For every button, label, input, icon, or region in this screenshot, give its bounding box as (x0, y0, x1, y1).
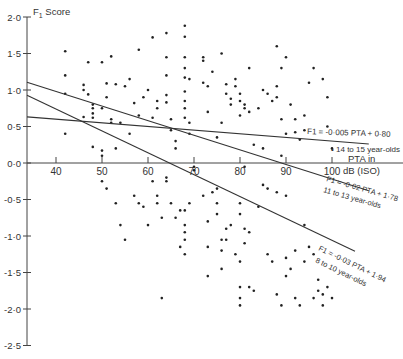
data-point (110, 55, 113, 58)
data-point (174, 140, 177, 143)
data-point (165, 74, 168, 77)
y-tick-label: 1·0 (7, 85, 21, 96)
data-point (165, 180, 168, 183)
data-point (317, 290, 320, 293)
data-point (285, 257, 288, 260)
x-tick-label: 40 (50, 166, 62, 177)
data-point (202, 81, 205, 84)
data-point (124, 85, 127, 88)
data-point (202, 56, 205, 59)
data-point (193, 169, 196, 172)
scatter-chart: 2·01·51·00·50·0-0·5-1·0-1·5-2·0-2·540506… (0, 0, 403, 359)
data-point (253, 144, 256, 147)
data-point (147, 224, 150, 227)
data-point (216, 187, 219, 190)
data-point (92, 107, 95, 110)
data-point (207, 220, 210, 223)
data-point (230, 98, 233, 101)
data-point (266, 187, 269, 190)
data-point (82, 89, 85, 92)
data-point (220, 268, 223, 271)
data-point (243, 227, 246, 230)
data-point (285, 56, 288, 59)
data-point (184, 231, 187, 234)
data-point (174, 147, 177, 150)
data-point (243, 242, 246, 245)
data-point (165, 101, 168, 104)
y-tick-label: -1·5 (4, 267, 21, 278)
data-point (184, 76, 187, 79)
data-point (133, 195, 136, 198)
data-point (147, 89, 150, 92)
data-point (115, 147, 118, 150)
data-point (243, 103, 246, 106)
data-point (193, 165, 196, 168)
data-point (161, 297, 164, 300)
data-point (184, 253, 187, 256)
data-point (170, 118, 173, 121)
y-tick-label: -0·5 (4, 194, 21, 205)
data-point (156, 195, 159, 198)
data-point (303, 224, 306, 227)
data-point (184, 56, 187, 59)
data-point (115, 83, 118, 86)
data-point (101, 61, 104, 64)
data-point (294, 249, 297, 252)
data-point (271, 260, 274, 263)
data-point (239, 297, 242, 300)
data-point (280, 118, 283, 121)
data-point (262, 89, 265, 92)
data-point (239, 213, 242, 216)
y-tick-label: -2·5 (4, 340, 21, 351)
data-point (225, 227, 228, 230)
data-point (230, 224, 233, 227)
data-point (92, 112, 95, 115)
data-point (257, 107, 260, 110)
data-point (276, 45, 279, 48)
data-point (64, 50, 67, 53)
data-point (184, 100, 187, 103)
y-tick-label: -2·0 (4, 304, 21, 315)
data-point (234, 85, 237, 88)
data-point (276, 293, 279, 296)
data-point (239, 286, 242, 289)
data-point (179, 209, 182, 212)
x-tick-label: 90 (280, 166, 292, 177)
data-point (239, 304, 242, 307)
data-point (161, 217, 164, 220)
equation-14-15: F1 = -0·005 PTA + 0·80 (307, 127, 391, 139)
data-point (184, 67, 187, 70)
data-point (312, 297, 315, 300)
data-point (211, 191, 214, 194)
data-point (308, 246, 311, 249)
y-tick-label: 1·5 (7, 48, 21, 59)
y-tick-label: 2·0 (7, 12, 21, 23)
data-point (262, 184, 265, 187)
y-axis-label: F1 Score (33, 6, 70, 19)
data-point (128, 78, 131, 81)
data-point (151, 116, 154, 119)
data-point (308, 81, 311, 84)
data-point (170, 129, 173, 132)
data-point (119, 224, 122, 227)
data-point (248, 231, 251, 234)
data-point (202, 195, 205, 198)
data-point (234, 253, 237, 256)
data-point (280, 154, 283, 157)
data-point (239, 114, 242, 117)
data-point (303, 114, 306, 117)
data-point (156, 107, 159, 110)
data-point (234, 78, 237, 81)
data-point (303, 260, 306, 263)
data-point (276, 191, 279, 194)
data-point (312, 253, 315, 256)
data-point (92, 116, 95, 119)
data-point (151, 180, 154, 183)
data-point (317, 279, 320, 282)
data-point (207, 275, 210, 278)
data-point (64, 133, 67, 136)
data-point (225, 83, 228, 86)
data-point (248, 286, 251, 289)
data-point (165, 176, 168, 179)
data-point (239, 100, 242, 103)
